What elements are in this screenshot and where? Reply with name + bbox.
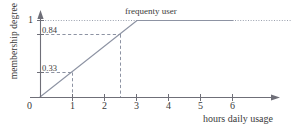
- membership-function-curve: [40, 21, 233, 98]
- y-tick-label-084: 0.84: [42, 26, 57, 35]
- x-tick-label-1: 1: [70, 101, 75, 111]
- y-tick-label-033: 0.33: [42, 64, 57, 73]
- x-tick-label-2: 2: [102, 101, 107, 111]
- x-axis-arrowhead: [271, 94, 280, 100]
- x-tick-label-6: 6: [230, 101, 235, 111]
- x-axis-title: hours daily usage: [203, 114, 273, 124]
- x-tick-label-0: 0: [27, 101, 32, 111]
- y-axis-arrowhead: [37, 10, 43, 19]
- x-tick-label-3: 3: [134, 101, 139, 111]
- x-tick-label-5: 5: [198, 101, 203, 111]
- x-tick-label-4: 4: [166, 101, 171, 111]
- y-tick-label-1: 1: [28, 15, 33, 25]
- y-axis-title: membership degree: [9, 0, 19, 87]
- series-label-frequenty-user: frequenty user: [125, 7, 177, 16]
- fuzzy-membership-chart: membership degree 1 0.84 0.33 0 1 2 3 4 …: [0, 0, 305, 132]
